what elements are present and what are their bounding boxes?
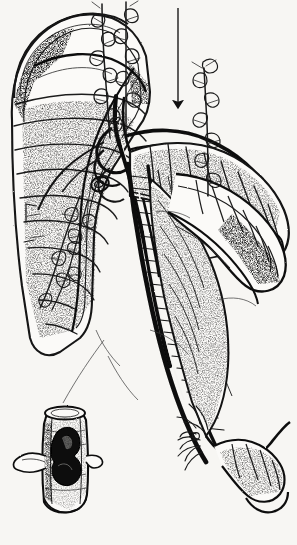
anatomical-figure: Pen-and-ink anatomical illustration of d… <box>0 0 297 545</box>
illustration-canvas <box>0 0 297 545</box>
